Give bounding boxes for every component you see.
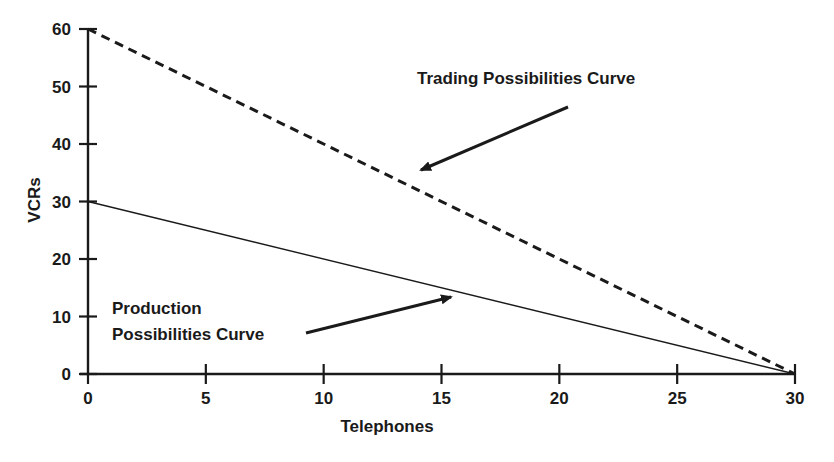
ppc-chart: 0102030405060 051015202530 Telephones VC… [0,0,834,462]
trading-annotation: Trading Possibilities Curve [417,69,635,170]
y-tick-label: 50 [52,78,71,97]
y-axis-label: VCRs [25,177,44,222]
production-annotation-line2: Possibilities Curve [112,325,264,344]
x-tick-label: 30 [786,389,805,408]
y-tick-label: 10 [52,308,71,327]
trading-arrow-icon [421,107,568,170]
production-possibilities-line [88,202,795,375]
x-tick-label: 15 [432,389,451,408]
trading-annotation-text: Trading Possibilities Curve [417,69,635,88]
x-tick-label: 5 [201,389,210,408]
y-tick-label: 30 [52,193,71,212]
y-tick-label: 0 [62,365,71,384]
x-tick-label: 25 [668,389,687,408]
y-tick-label: 60 [52,20,71,39]
x-tick-label: 0 [83,389,92,408]
x-axis-label: Telephones [340,417,433,436]
production-annotation-line1: Production [112,299,202,318]
x-tick-label: 20 [550,389,569,408]
x-axis-ticks: 051015202530 [83,364,804,408]
y-tick-label: 20 [52,250,71,269]
y-tick-label: 40 [52,135,71,154]
production-arrow-icon [306,297,451,333]
x-tick-label: 10 [314,389,333,408]
production-annotation: Production Possibilities Curve [112,297,451,344]
